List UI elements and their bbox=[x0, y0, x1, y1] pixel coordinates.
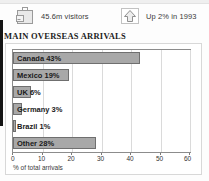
bar[interactable] bbox=[13, 120, 16, 132]
bar-row[interactable]: Mexico 19% bbox=[13, 67, 190, 84]
suitcase-icon bbox=[14, 5, 36, 27]
axis-tick-label: 30 bbox=[97, 155, 104, 162]
stat-growth: Up 2% in 1993 bbox=[119, 5, 197, 27]
x-axis-label: % of total arrivals bbox=[13, 164, 63, 171]
axis-tick-label: 50 bbox=[156, 155, 163, 162]
bar-row[interactable]: Germany 3% bbox=[13, 101, 190, 118]
axis-tick-label: 60 bbox=[184, 155, 191, 162]
top-divider bbox=[0, 0, 209, 4]
chart-card: Canada 43%Mexico 19%UK 6%Germany 3%Brazi… bbox=[5, 43, 202, 175]
bar-label: UK 6% bbox=[17, 87, 41, 98]
axis-tick-label: 10 bbox=[38, 155, 45, 162]
gridline bbox=[190, 50, 191, 152]
bar-label: Germany 3% bbox=[17, 104, 62, 115]
left-edge-marker bbox=[0, 20, 3, 126]
bar-label: Brazil 1% bbox=[17, 121, 50, 132]
axis-tick-label: 40 bbox=[126, 155, 133, 162]
bar-series: Canada 43%Mexico 19%UK 6%Germany 3%Brazi… bbox=[13, 50, 190, 152]
bar-label: Other 28% bbox=[17, 138, 54, 149]
stats-row: 45.6m visitors Up 2% in 1993 bbox=[12, 5, 207, 29]
axis-tick-label: 20 bbox=[67, 155, 74, 162]
plot-area: Canada 43%Mexico 19%UK 6%Germany 3%Brazi… bbox=[12, 49, 191, 153]
bar-row[interactable]: Other 28% bbox=[13, 135, 190, 152]
bar-label: Mexico 19% bbox=[17, 70, 60, 81]
stat-growth-label: Up 2% in 1993 bbox=[146, 12, 197, 21]
bar-row[interactable]: Canada 43% bbox=[13, 50, 190, 67]
bar-row[interactable]: UK 6% bbox=[13, 84, 190, 101]
bar-label: Canada 43% bbox=[17, 53, 61, 64]
stat-visitors: 45.6m visitors bbox=[14, 5, 89, 27]
page-title: MAIN OVERSEAS ARRIVALS bbox=[4, 31, 126, 41]
axis-tick-label: 0 bbox=[11, 155, 15, 162]
infographic-card: 45.6m visitors Up 2% in 1993 MAIN OVERSE… bbox=[0, 0, 209, 181]
up-arrow-icon bbox=[119, 5, 141, 27]
bar-row[interactable]: Brazil 1% bbox=[13, 118, 190, 135]
stat-visitors-label: 45.6m visitors bbox=[41, 12, 89, 21]
